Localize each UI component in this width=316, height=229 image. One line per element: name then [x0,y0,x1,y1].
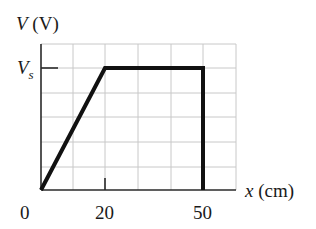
x-tick-0: 0 [20,203,30,222]
x-tick-50: 50 [193,203,212,222]
x-tick-20: 20 [95,203,114,222]
y-axis-var: V [16,13,28,34]
x-axis-var: x [245,180,253,201]
y-axis-label: V (V) [16,14,59,33]
voltage-curve [41,68,203,190]
x-axis-unit: (cm) [258,180,294,201]
grid-lines [41,44,236,190]
vs-subscript: s [29,67,34,82]
y-tick-vs: Vs [17,58,34,77]
y-axis-unit: (V) [32,13,58,34]
x-axis-label: x (cm) [245,181,294,200]
vs-main: V [17,57,29,78]
